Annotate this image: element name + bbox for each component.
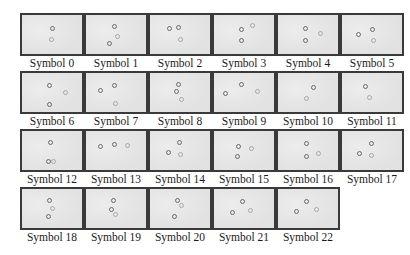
circle-marker-icon <box>304 199 309 204</box>
symbol-thumbnail <box>148 187 212 230</box>
symbol-cell: Symbol 8 <box>148 71 212 129</box>
circle-marker-icon <box>239 27 244 32</box>
circle-marker-icon <box>112 83 117 88</box>
symbol-thumbnail <box>276 71 340 114</box>
symbol-label: Symbol 17 <box>334 173 410 185</box>
symbol-cell: Symbol 0 <box>20 13 84 71</box>
circle-marker-icon <box>239 82 244 87</box>
circle-marker-icon <box>236 144 241 149</box>
symbol-label: Symbol 11 <box>334 115 410 127</box>
circle-marker-icon <box>113 212 118 217</box>
circle-marker-icon <box>48 140 53 145</box>
symbol-cell: Symbol 10 <box>276 71 340 129</box>
circle-marker-icon <box>248 208 253 213</box>
circle-marker-icon <box>369 141 374 146</box>
circle-marker-icon <box>316 151 321 156</box>
symbol-thumbnail <box>212 13 276 56</box>
symbol-label: Symbol 5 <box>334 57 410 69</box>
circle-marker-icon <box>175 198 180 203</box>
symbol-thumbnail <box>84 129 148 172</box>
circle-marker-icon <box>107 41 112 46</box>
circle-marker-icon <box>113 101 118 106</box>
symbol-thumbnail <box>20 187 84 230</box>
circle-marker-icon <box>371 38 376 43</box>
circle-marker-icon <box>51 159 56 164</box>
circle-marker-icon <box>47 102 52 107</box>
symbol-thumbnail <box>276 13 340 56</box>
symbol-thumbnail <box>212 187 276 230</box>
symbol-cell: Symbol 21 <box>212 187 276 245</box>
circle-marker-icon <box>176 82 181 87</box>
circle-marker-icon <box>318 31 323 36</box>
circle-marker-icon <box>111 198 116 203</box>
symbol-thumbnail <box>20 129 84 172</box>
circle-marker-icon <box>177 140 182 145</box>
symbol-cell: Symbol 16 <box>276 129 340 187</box>
symbol-cell: Symbol 3 <box>212 13 276 71</box>
symbol-cell: Symbol 11 <box>340 71 404 129</box>
circle-marker-icon <box>294 209 299 214</box>
circle-marker-icon <box>311 85 316 90</box>
symbol-thumbnail <box>212 129 276 172</box>
symbol-cell: Symbol 20 <box>148 187 212 245</box>
symbol-label: Symbol 22 <box>270 231 346 243</box>
circle-marker-icon <box>357 151 362 156</box>
circle-marker-icon <box>50 206 55 211</box>
symbol-grid: Symbol 0Symbol 1Symbol 2Symbol 3Symbol 4… <box>0 0 410 255</box>
circle-marker-icon <box>356 32 361 37</box>
circle-marker-icon <box>112 142 117 147</box>
symbol-thumbnail <box>340 129 404 172</box>
symbol-thumbnail <box>84 187 148 230</box>
symbol-cell: Symbol 2 <box>148 13 212 71</box>
circle-marker-icon <box>115 34 120 39</box>
circle-marker-icon <box>174 89 179 94</box>
symbol-cell: Symbol 22 <box>276 187 340 245</box>
circle-marker-icon <box>239 38 244 43</box>
symbol-cell: Symbol 19 <box>84 187 148 245</box>
circle-marker-icon <box>112 24 117 29</box>
symbol-cell: Symbol 18 <box>20 187 84 245</box>
circle-marker-icon <box>47 83 52 88</box>
circle-marker-icon <box>47 198 52 203</box>
circle-marker-icon <box>179 203 184 208</box>
circle-marker-icon <box>50 26 55 31</box>
circle-marker-icon <box>303 26 308 31</box>
symbol-thumbnail <box>20 13 84 56</box>
circle-marker-icon <box>240 199 245 204</box>
circle-marker-icon <box>98 144 103 149</box>
symbol-cell: Symbol 13 <box>84 129 148 187</box>
circle-marker-icon <box>370 27 375 32</box>
symbol-cell: Symbol 14 <box>148 129 212 187</box>
circle-marker-icon <box>46 214 51 219</box>
circle-marker-icon <box>304 154 309 159</box>
circle-marker-icon <box>304 141 309 146</box>
circle-marker-icon <box>98 88 103 93</box>
circle-marker-icon <box>230 210 235 215</box>
symbol-thumbnail <box>148 71 212 114</box>
circle-marker-icon <box>49 37 54 42</box>
symbol-thumbnail <box>148 129 212 172</box>
symbol-thumbnail <box>340 13 404 56</box>
circle-marker-icon <box>125 143 130 148</box>
symbol-thumbnail <box>340 71 404 114</box>
circle-marker-icon <box>167 26 172 31</box>
symbol-thumbnail <box>148 13 212 56</box>
circle-marker-icon <box>172 214 177 219</box>
symbol-thumbnail <box>20 71 84 114</box>
circle-marker-icon <box>235 154 240 159</box>
symbol-cell: Symbol 15 <box>212 129 276 187</box>
symbol-thumbnail <box>276 187 340 230</box>
circle-marker-icon <box>367 95 372 100</box>
circle-marker-icon <box>63 90 68 95</box>
circle-marker-icon <box>314 207 319 212</box>
symbol-cell: Symbol 12 <box>20 129 84 187</box>
circle-marker-icon <box>109 207 114 212</box>
circle-marker-icon <box>166 150 171 155</box>
circle-marker-icon <box>178 37 183 42</box>
symbol-cell: Symbol 1 <box>84 13 148 71</box>
symbol-thumbnail <box>276 129 340 172</box>
symbol-cell: Symbol 17 <box>340 129 404 187</box>
symbol-cell: Symbol 4 <box>276 13 340 71</box>
symbol-cell: Symbol 5 <box>340 13 404 71</box>
circle-marker-icon <box>363 84 368 89</box>
